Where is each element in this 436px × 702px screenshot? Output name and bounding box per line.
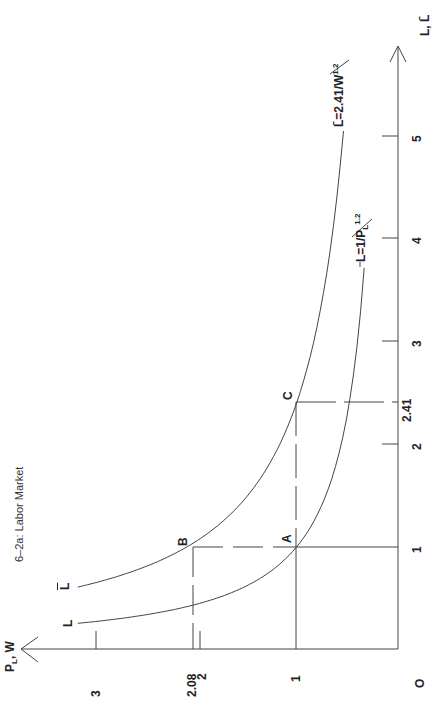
x-axis-label-p: P [3, 664, 17, 672]
point-A-label: A [280, 534, 294, 543]
x-tick-label-2: 2 [195, 673, 209, 680]
point-B-label: B [176, 537, 190, 546]
labor-supply-curve [78, 131, 344, 587]
curve-L-end-label: L [61, 620, 75, 627]
curve-L-eq-sup: 1.2 [353, 214, 362, 225]
curve-L-eq-text: L=1/P [354, 230, 368, 262]
point-C-label: C [281, 391, 295, 400]
curve-Lbar-equation: L̄=2.41/W1.2 [331, 64, 346, 127]
y-tick-label-2: 2 [410, 443, 424, 450]
x-tick-label-3: 3 [89, 690, 103, 697]
x-axis-label: PL, W [3, 641, 19, 672]
curve-Lbar-eq-sup: 1.2 [331, 64, 340, 75]
origin-label: O [413, 679, 427, 688]
figure-caption: 6–2a: Labor Market [13, 467, 25, 562]
chart-canvas [0, 0, 436, 702]
x-tick-label-1: 1 [289, 675, 303, 682]
y-tick-label-1: 1 [410, 546, 424, 553]
curve-Lbar-end-label: L [58, 583, 72, 590]
y-tick-label-3: 3 [410, 340, 424, 347]
y-axis-label: L, L̄ [418, 15, 432, 36]
y-tick-label-241: 2.41 [400, 399, 414, 422]
x-axis-label-sub: L [10, 659, 19, 664]
y-tick-label-4: 4 [410, 237, 424, 244]
x-axis-label-rest: , W [3, 641, 17, 659]
labor-demand-curve [78, 268, 364, 623]
y-tick-label-5: 5 [410, 135, 424, 142]
curve-Lbar-eq-text: L̄=2.41/W [332, 75, 346, 127]
curve-L-eq-sub: L [361, 225, 370, 230]
curve-L-equation: L=1/PL1.2 [353, 214, 370, 262]
